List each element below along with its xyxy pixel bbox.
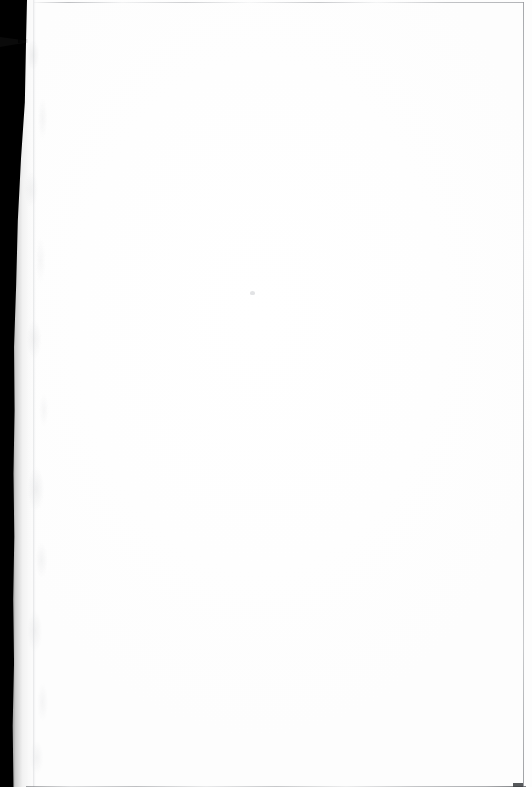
page-edge-right-rule [523,2,524,787]
below-page-margin [0,787,532,791]
page-edge-top-rule [34,2,524,3]
dust-speck [250,291,255,295]
gutter-paper-texture [24,0,54,789]
paper-tone-gradient [26,0,532,791]
scanned-document-page [0,0,532,791]
gutter-seam-line [33,0,36,789]
